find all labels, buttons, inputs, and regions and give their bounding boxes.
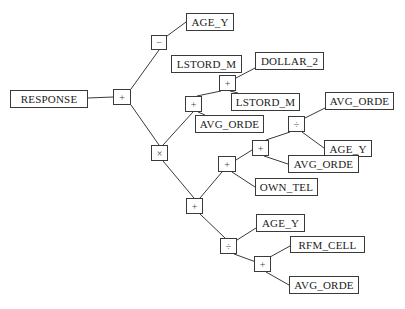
node-op-times: × — [151, 145, 168, 161]
expression-tree-diagram: RESPONSE + − AGE_Y LSTORD_M DOLLAR_2 + L… — [0, 0, 405, 309]
node-avg-orde-1: AVG_ORDE — [195, 115, 264, 133]
node-rfm-cell: RFM_CELL — [290, 236, 365, 253]
node-age-y-3: AGE_Y — [256, 214, 305, 232]
node-avg-orde-3: AVG_ORDE — [288, 155, 359, 173]
node-op-plus-a: + — [185, 96, 202, 112]
node-op-minus: − — [151, 35, 167, 50]
node-lstord-m-1: LSTORD_M — [171, 55, 242, 73]
node-op-plus-c: + — [186, 198, 203, 214]
node-op-root-plus: + — [113, 89, 131, 105]
node-op-plus-e: + — [254, 256, 271, 272]
node-op-plus-d: + — [252, 140, 269, 156]
node-dollar-2: DOLLAR_2 — [255, 52, 324, 70]
node-response: RESPONSE — [10, 90, 88, 108]
node-op-plus-b: + — [219, 75, 236, 91]
node-age-y-1: AGE_Y — [186, 13, 234, 31]
node-op-divide-a: ÷ — [288, 116, 305, 132]
node-avg-orde-4: AVG_ORDE — [289, 276, 359, 294]
node-avg-orde-2: AVG_ORDE — [325, 92, 394, 110]
node-own-tel: OWN_TEL — [255, 178, 318, 196]
node-op-divide-b: ÷ — [220, 238, 237, 254]
node-lstord-m-2: LSTORD_M — [231, 93, 300, 111]
node-op-plus-c2: + — [218, 156, 236, 172]
